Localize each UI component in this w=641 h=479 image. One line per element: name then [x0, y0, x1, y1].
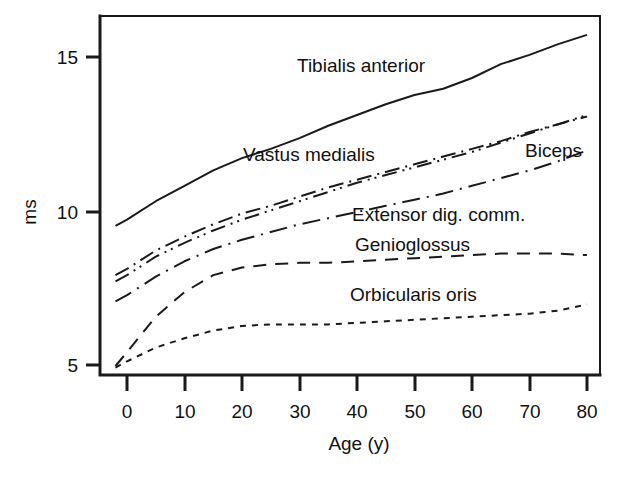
y-tick-label-10: 10: [57, 202, 78, 223]
x-tick-label-0: 0: [122, 401, 133, 422]
series-label-extensor-dig-comm: Extensor dig. comm.: [352, 204, 525, 225]
x-tick-label-50: 50: [404, 401, 425, 422]
y-tick-label-15: 15: [57, 47, 78, 68]
series-label-vastus-medialis: Vastus medialis: [243, 144, 375, 165]
data-series-group: [116, 35, 588, 368]
x-tick-label-10: 10: [174, 401, 195, 422]
x-tick-label-60: 60: [461, 401, 482, 422]
x-tick-label-30: 30: [289, 401, 310, 422]
y-axis-ticks: [86, 57, 100, 365]
x-tick-label-80: 80: [576, 401, 597, 422]
y-axis-title: ms: [19, 199, 40, 224]
x-axis-ticks: [127, 375, 587, 391]
series-label-tibialis-anterior: Tibialis anterior: [297, 55, 426, 76]
chart-figure: 15 10 5 ms 0 10 20 30 40 50 60 70 80 Age…: [0, 0, 641, 479]
series-label-genioglossus: Genioglossus: [355, 234, 470, 255]
series-label-biceps: Biceps: [525, 140, 582, 161]
y-tick-label-5: 5: [67, 355, 78, 376]
curve-genioglossus: [116, 254, 588, 366]
x-axis-title: Age (y): [328, 433, 389, 454]
x-tick-label-40: 40: [346, 401, 367, 422]
series-label-orbicularis-oris: Orbicularis oris: [350, 284, 477, 305]
x-tick-label-70: 70: [519, 401, 540, 422]
curve-orbicularis-oris: [116, 304, 588, 367]
curve-extensor-dig-comm: [116, 150, 588, 301]
curve-vastus-medialis: [116, 117, 588, 276]
chart-canvas: 15 10 5 ms 0 10 20 30 40 50 60 70 80 Age…: [0, 0, 641, 479]
curve-biceps: [116, 115, 588, 281]
x-tick-label-20: 20: [231, 401, 252, 422]
